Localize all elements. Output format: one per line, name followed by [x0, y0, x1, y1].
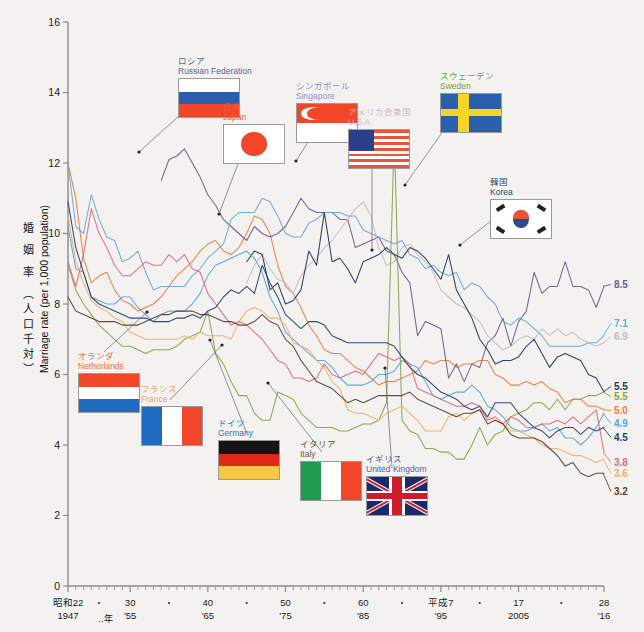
legend-label-en-uk: United Kingdom	[366, 465, 428, 475]
legend-label-en-korea: Korea	[490, 188, 552, 198]
legend-label-en-france: France	[141, 395, 203, 405]
legend-item-germany[interactable]: ドイツGermany	[218, 419, 280, 480]
x-tick-label-era: 40	[203, 597, 214, 608]
legend-label-en-netherlands: Netherlands	[78, 362, 140, 372]
flag-icon-germany	[218, 440, 280, 480]
x-tick-label-era: 平成7	[428, 597, 453, 608]
y-tick-label: 4	[54, 439, 60, 451]
flag-icon-sweden	[440, 93, 502, 133]
flag-icon-netherlands	[78, 373, 140, 413]
y-tick-label: 14	[48, 86, 60, 98]
legend-item-usa[interactable]: アメリカ合衆国U.S.A.	[348, 108, 411, 169]
y-tick-label: 16	[48, 16, 60, 28]
end-label-germany: 3.8	[614, 457, 628, 468]
leader-anchor-netherlands	[145, 310, 148, 313]
chart-page: 1614121086420昭和22194730'5540'6550'7560'8…	[0, 0, 644, 632]
x-tick-label-era: 50	[280, 597, 291, 608]
y-tick-label: 12	[48, 157, 60, 169]
legend-item-france[interactable]: フランスFrance	[141, 385, 203, 446]
end-label-france: 3.6	[614, 468, 628, 479]
leader-anchor-japan	[217, 212, 220, 215]
x-tick-label-year: 2005	[508, 610, 529, 621]
legend-label-en-sweden: Sweden	[440, 82, 502, 92]
leader-anchor-uk	[383, 366, 386, 369]
flag-icon-japan	[223, 124, 285, 164]
end-label-netherlands: 4.9	[614, 418, 628, 429]
flag-icon-usa	[348, 129, 410, 169]
y-axis-label-jp: 婚 姻 率 （人口千対）	[20, 222, 36, 378]
x-tick-label-era: 17	[513, 597, 524, 608]
y-tick-label: 2	[54, 509, 60, 521]
end-label-uk: 4.5	[614, 432, 628, 443]
x-tick-label-year: '85	[357, 610, 369, 621]
x-tick-label-era: 昭和22	[53, 597, 84, 608]
end-label-usa: 7.1	[614, 318, 628, 329]
leader-anchor-singapore	[294, 159, 297, 162]
leader-anchor-usa	[370, 248, 373, 251]
legend-label-en-germany: Germany	[218, 429, 280, 439]
end-label-japan: 5.0	[614, 405, 628, 416]
end-label-italy: 3.2	[614, 486, 628, 497]
x-tick-label-era: 60	[358, 597, 369, 608]
legend-label-en-usa: U.S.A.	[348, 118, 411, 128]
x-tick-label-year: '75	[279, 610, 291, 621]
x-tick-label-era: 30	[125, 597, 136, 608]
leader-anchor-sweden	[403, 183, 406, 186]
x-tick-label-era: 28	[599, 597, 610, 608]
legend-label-en-russia: Russian Federation	[178, 67, 252, 77]
flag-icon-uk	[366, 476, 428, 516]
legend-item-uk[interactable]: イギリスUnited Kingdom	[366, 455, 428, 516]
flag-icon-france	[141, 406, 203, 446]
legend-item-netherlands[interactable]: オランダNetherlands	[78, 352, 140, 413]
legend-item-sweden[interactable]: スウェーデンSweden	[440, 72, 502, 133]
x-tick-label-year: 1947	[57, 610, 78, 621]
legend-label-en-singapore: Singapore	[296, 92, 358, 102]
legend-item-italy[interactable]: イタリアItaly	[300, 440, 362, 501]
leader-anchor-italy	[266, 381, 269, 384]
legend-item-japan[interactable]: 日本Japan	[223, 103, 285, 164]
end-label-singapore: 6.9	[614, 331, 628, 342]
y-tick-label: 0	[54, 580, 60, 592]
y-tick-label: 10	[48, 227, 60, 239]
leader-anchor-korea	[458, 243, 461, 246]
leader-anchor-germany	[208, 338, 211, 341]
end-label-russia: 8.5	[614, 279, 628, 290]
flag-icon-korea	[490, 199, 552, 239]
y-tick-label: 6	[54, 368, 60, 380]
y-axis-label-en: Marriage rate (per 1,000 population)	[38, 205, 50, 373]
leader-anchor-russia	[137, 150, 140, 153]
x-axis-unit-label: ‥年	[98, 612, 113, 625]
x-tick-label-year: '55	[124, 610, 136, 621]
y-tick-label: 8	[54, 298, 60, 310]
leader-anchor-france	[220, 343, 223, 346]
flag-icon-italy	[300, 461, 362, 501]
legend-label-en-japan: Japan	[223, 113, 285, 123]
legend-label-en-italy: Italy	[300, 450, 362, 460]
x-tick-label-year: '16	[598, 610, 610, 621]
end-label-sweden: 5.5	[614, 391, 628, 402]
legend-item-korea[interactable]: 韓国Korea	[490, 178, 552, 239]
x-tick-label-year: '65	[202, 610, 214, 621]
x-tick-label-year: '95	[435, 610, 447, 621]
